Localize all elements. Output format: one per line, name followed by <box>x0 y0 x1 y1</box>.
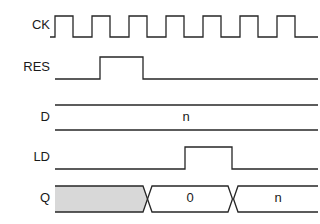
bus-value-d-0: n <box>182 109 189 124</box>
signal-label-q: Q <box>40 190 50 205</box>
bus-value-q-0: 0 <box>186 190 193 205</box>
timing-diagram-figure: CK RES D LD Q 0nn <box>0 0 320 224</box>
waveform-ck <box>50 16 318 37</box>
signal-label-ck: CK <box>32 17 50 32</box>
waveform-bus-q-shading <box>55 186 148 212</box>
waveform-ld <box>55 147 318 169</box>
signal-label-res: RES <box>23 59 50 74</box>
waveform-res <box>55 57 318 79</box>
signal-label-ld: LD <box>33 149 50 164</box>
signal-label-d: D <box>41 109 50 124</box>
waveform-canvas: CK RES D LD Q 0nn <box>0 0 320 224</box>
bus-shaded-region <box>55 186 148 212</box>
bus-value-q-n: n <box>274 190 281 205</box>
